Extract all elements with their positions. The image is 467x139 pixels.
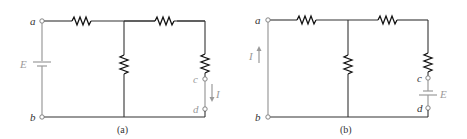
panel-b bbox=[257, 16, 438, 119]
label-source-e: E bbox=[19, 58, 27, 70]
circuit-figure: a b c d E I (a) a b bbox=[0, 0, 467, 139]
label-current-i: I bbox=[248, 50, 254, 62]
caption-b: (b) bbox=[340, 124, 352, 136]
label-node-d: d bbox=[193, 103, 199, 115]
resistor-icon bbox=[344, 55, 352, 74]
resistor-icon bbox=[378, 16, 397, 24]
label-node-c: c bbox=[193, 73, 198, 85]
label-node-d: d bbox=[417, 102, 423, 114]
resistor-icon bbox=[72, 17, 91, 25]
terminal-c bbox=[203, 77, 207, 81]
terminal-b bbox=[40, 115, 44, 119]
terminal-d bbox=[203, 107, 207, 111]
resistor-icon bbox=[201, 54, 209, 73]
resistor-icon bbox=[120, 55, 128, 74]
panel-a bbox=[33, 15, 215, 119]
label-node-b: b bbox=[255, 111, 261, 123]
terminal-d bbox=[426, 106, 430, 110]
label-current-i: I bbox=[215, 88, 221, 100]
terminal-a bbox=[266, 18, 270, 22]
label-node-c: c bbox=[417, 72, 422, 84]
label-node-a: a bbox=[30, 15, 36, 27]
resistor-icon bbox=[297, 16, 316, 24]
label-node-b: b bbox=[30, 111, 36, 123]
terminal-a bbox=[40, 19, 44, 23]
label-node-a: a bbox=[255, 14, 261, 26]
resistor-icon bbox=[424, 53, 432, 72]
label-source-e: E bbox=[439, 88, 447, 100]
terminal-c bbox=[426, 76, 430, 80]
caption-a: (a) bbox=[117, 124, 128, 136]
terminal-b bbox=[266, 115, 270, 119]
